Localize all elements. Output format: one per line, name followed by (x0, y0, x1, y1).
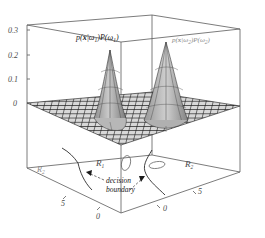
density-label-class-2: p(x|ω2)P(ω2) (171, 36, 211, 45)
xtick-label-0: 0 (96, 212, 100, 221)
xtick-label-5: 5 (61, 199, 65, 208)
region-label-r2-right: R2 (184, 159, 194, 170)
region-label-r1: R1 (95, 158, 105, 169)
ytick-label-03: 0.3 (8, 26, 18, 35)
region-label-r2-left: R2 (36, 165, 45, 175)
ytick-label-01: 0.1 (8, 75, 18, 84)
ytick-base-label-0: 0 (163, 204, 167, 213)
ytick-base-label-5: 5 (198, 187, 202, 196)
figure-container: 0.3 0.2 0.1 0 5 0 5 0 p(x|ω1)P(ω1) p(x|ω… (0, 0, 265, 238)
ytick-label-02: 0.2 (8, 51, 18, 60)
ytick-label-0: 0 (13, 99, 17, 108)
decision-boundary-label-line2: boundary (106, 185, 135, 194)
text-layer: 0.3 0.2 0.1 0 5 0 5 0 p(x|ω1)P(ω1) p(x|ω… (0, 0, 265, 238)
decision-boundary-label-line1: decision (106, 176, 131, 185)
density-label-class-1: p(x|ω1)P(ω1) (75, 33, 119, 43)
